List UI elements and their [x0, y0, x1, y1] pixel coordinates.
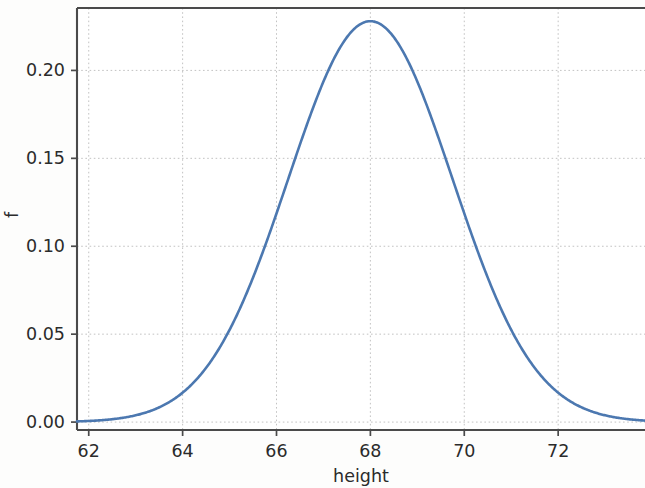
- x-tick-label: 68: [359, 441, 381, 461]
- y-tick-label: 0.15: [26, 148, 65, 168]
- y-tick-label: 0.10: [26, 236, 65, 256]
- y-axis-tick-labels: 0.000.050.100.150.20: [26, 60, 65, 432]
- x-tick-label: 62: [78, 441, 100, 461]
- x-axis-tick-labels: 626466687072: [78, 441, 570, 461]
- normal-distribution-chart: 626466687072 0.000.050.100.150.20 height…: [0, 0, 645, 488]
- y-axis-title: f: [2, 211, 22, 218]
- x-tick-label: 66: [265, 441, 287, 461]
- x-tick-label: 72: [547, 441, 569, 461]
- y-tick-label: 0.05: [26, 324, 65, 344]
- x-tick-label: 70: [453, 441, 475, 461]
- figure-canvas: 626466687072 0.000.050.100.150.20 height…: [0, 0, 645, 488]
- x-tick-label: 64: [171, 441, 193, 461]
- plot-background: [77, 8, 645, 430]
- x-axis-title: height: [333, 466, 389, 486]
- y-tick-label: 0.20: [26, 60, 65, 80]
- y-tick-label: 0.00: [26, 412, 65, 432]
